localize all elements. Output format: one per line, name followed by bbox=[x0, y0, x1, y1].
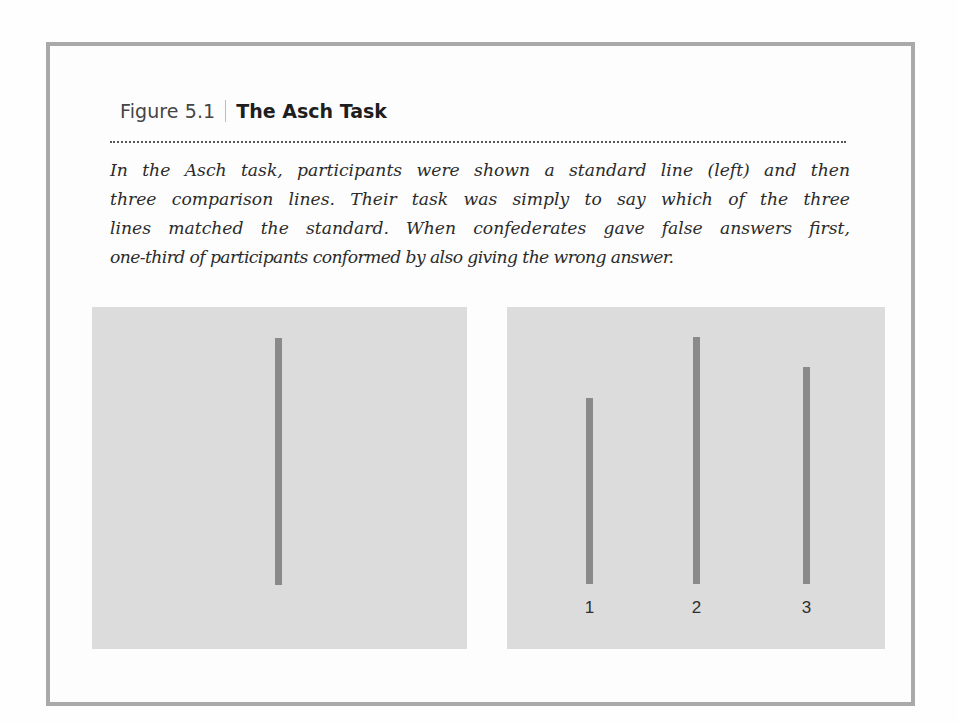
caption-line: one-third of participants conformed by a… bbox=[110, 243, 850, 272]
figure-number: Figure 5.1 bbox=[120, 100, 215, 122]
header-separator bbox=[225, 100, 226, 122]
comparison-label-3: 3 bbox=[792, 598, 822, 618]
caption-line: three comparison lines. Their task was s… bbox=[110, 185, 850, 214]
comparison-lines-panel: 1 2 3 bbox=[507, 307, 885, 649]
comparison-line-2 bbox=[693, 337, 700, 584]
comparison-line-3 bbox=[803, 367, 810, 584]
comparison-line-1 bbox=[586, 398, 593, 584]
standard-line-panel bbox=[92, 307, 467, 649]
dotted-divider bbox=[110, 141, 846, 143]
figure-header: Figure 5.1 The Asch Task bbox=[120, 97, 387, 125]
figure-caption: In the Asch task, participants were show… bbox=[110, 156, 850, 272]
standard-line bbox=[275, 338, 282, 585]
caption-line: In the Asch task, participants were show… bbox=[110, 156, 850, 185]
figure-title: The Asch Task bbox=[236, 100, 387, 122]
comparison-label-2: 2 bbox=[682, 598, 712, 618]
comparison-label-1: 1 bbox=[575, 598, 605, 618]
caption-line: lines matched the standard. When confede… bbox=[110, 214, 850, 243]
